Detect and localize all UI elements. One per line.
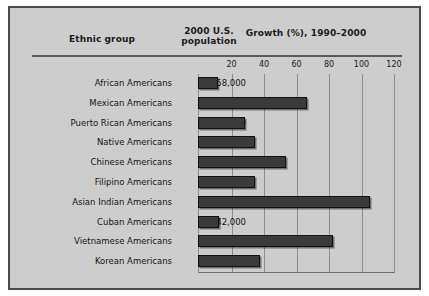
bar bbox=[198, 117, 245, 129]
bar bbox=[198, 77, 218, 89]
axis-tick-label: 120 bbox=[386, 60, 401, 69]
chart-row: Filipino Americans1,850,000 bbox=[10, 173, 419, 193]
chart-row: Puerto Rican Americans3,406,000 bbox=[10, 114, 419, 134]
bar bbox=[198, 176, 255, 188]
bar bbox=[198, 255, 260, 267]
axis-tick-label: 20 bbox=[226, 60, 236, 69]
chart-row: Cuban Americans1,242,000 bbox=[10, 213, 419, 233]
row-label-ethnic-group: Puerto Rican Americans bbox=[24, 118, 172, 128]
table-header: Ethnic group 2000 U.S. population Growth… bbox=[10, 8, 419, 60]
bar bbox=[198, 235, 333, 247]
row-label-ethnic-group: Mexican Americans bbox=[24, 98, 172, 108]
column-header-ethnic-group: Ethnic group bbox=[32, 34, 172, 44]
bar bbox=[198, 156, 286, 168]
chart-row: Chinese Americans2,433,000 bbox=[10, 153, 419, 173]
bar bbox=[198, 136, 255, 148]
row-label-ethnic-group: African Americans bbox=[24, 78, 172, 88]
row-label-ethnic-group: Native Americans bbox=[24, 137, 172, 147]
row-label-ethnic-group: Filipino Americans bbox=[24, 177, 172, 187]
chart-row: Asian Indian Americans1,679,000 bbox=[10, 193, 419, 213]
chart-row: Vietnamese Americans1,123,000 bbox=[10, 232, 419, 252]
axis-tick-label: 80 bbox=[324, 60, 334, 69]
row-label-ethnic-group: Cuban Americans bbox=[24, 217, 172, 227]
chart-row: Korean Americans1,077,000 bbox=[10, 252, 419, 272]
axis-tick-label: 40 bbox=[259, 60, 269, 69]
header-divider bbox=[32, 55, 402, 57]
row-label-ethnic-group: Vietnamese Americans bbox=[24, 236, 172, 246]
bar bbox=[198, 216, 219, 228]
axis-tick-label: 60 bbox=[291, 60, 301, 69]
axis-tick-label: 100 bbox=[354, 60, 369, 69]
chart-row: Mexican Americans20,641,000 bbox=[10, 94, 419, 114]
column-header-growth: Growth (%), 1990–2000 bbox=[208, 28, 404, 38]
chart-row: Native Americans2,476,000 bbox=[10, 133, 419, 153]
row-label-ethnic-group: Asian Indian Americans bbox=[24, 197, 172, 207]
chart-row: African Americans34,658,000 bbox=[10, 74, 419, 94]
chart-panel: Ethnic group 2000 U.S. population Growth… bbox=[8, 6, 421, 290]
bar bbox=[198, 196, 370, 208]
row-label-ethnic-group: Chinese Americans bbox=[24, 157, 172, 167]
figure-root: Ethnic group 2000 U.S. population Growth… bbox=[0, 0, 429, 296]
row-label-ethnic-group: Korean Americans bbox=[24, 256, 172, 266]
bar bbox=[198, 97, 307, 109]
